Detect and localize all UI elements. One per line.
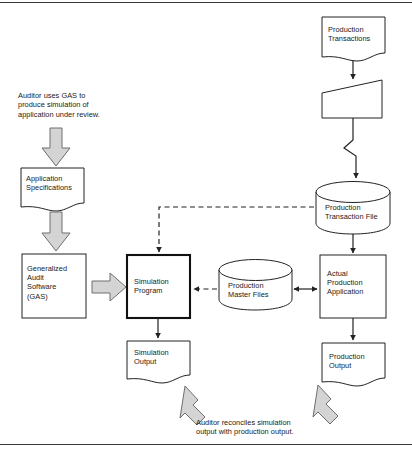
connector-manual-to-transaction-file xyxy=(344,118,356,178)
note-auditor-uses-gas: Auditor uses GAS to produce simulation o… xyxy=(18,91,133,119)
label-actual-production-application: Actual Production Application xyxy=(327,269,385,297)
manual-input-shape xyxy=(322,80,382,118)
production-transaction-file-top xyxy=(316,182,390,203)
label-simulation-output: Simulation Output xyxy=(134,348,192,366)
block-arrow-gas-to-simulation-program xyxy=(92,273,126,301)
label-production-transactions: Production Transactions xyxy=(328,25,388,43)
connector-transaction-file-to-simulation-program xyxy=(159,207,314,252)
diagram-shapes-layer xyxy=(0,0,412,455)
label-production-transaction-file: Production Transaction File xyxy=(325,203,387,221)
block-arrow-note-to-app-specs xyxy=(42,128,70,166)
diagram-canvas: Auditor uses GAS to produce simulation o… xyxy=(0,0,412,455)
block-arrow-app-specs-to-gas xyxy=(42,212,70,251)
label-simulation-program: Simulation Program xyxy=(134,277,192,295)
label-application-specifications: Application Specifications xyxy=(26,174,86,192)
label-generalized-audit-software: Generalized Audit Software (GAS) xyxy=(27,264,87,301)
note-auditor-reconciles: Auditor reconciles simulation output wit… xyxy=(196,418,356,437)
label-production-output: Production Output xyxy=(329,352,387,370)
production-master-files-top xyxy=(219,260,292,281)
label-production-master-files: Production Master Files xyxy=(228,281,286,299)
